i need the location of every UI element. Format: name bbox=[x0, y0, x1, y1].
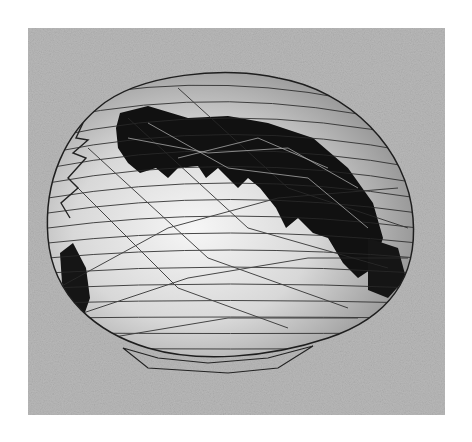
wireframe-mesh-image bbox=[28, 28, 445, 415]
figure-panel bbox=[28, 28, 445, 415]
